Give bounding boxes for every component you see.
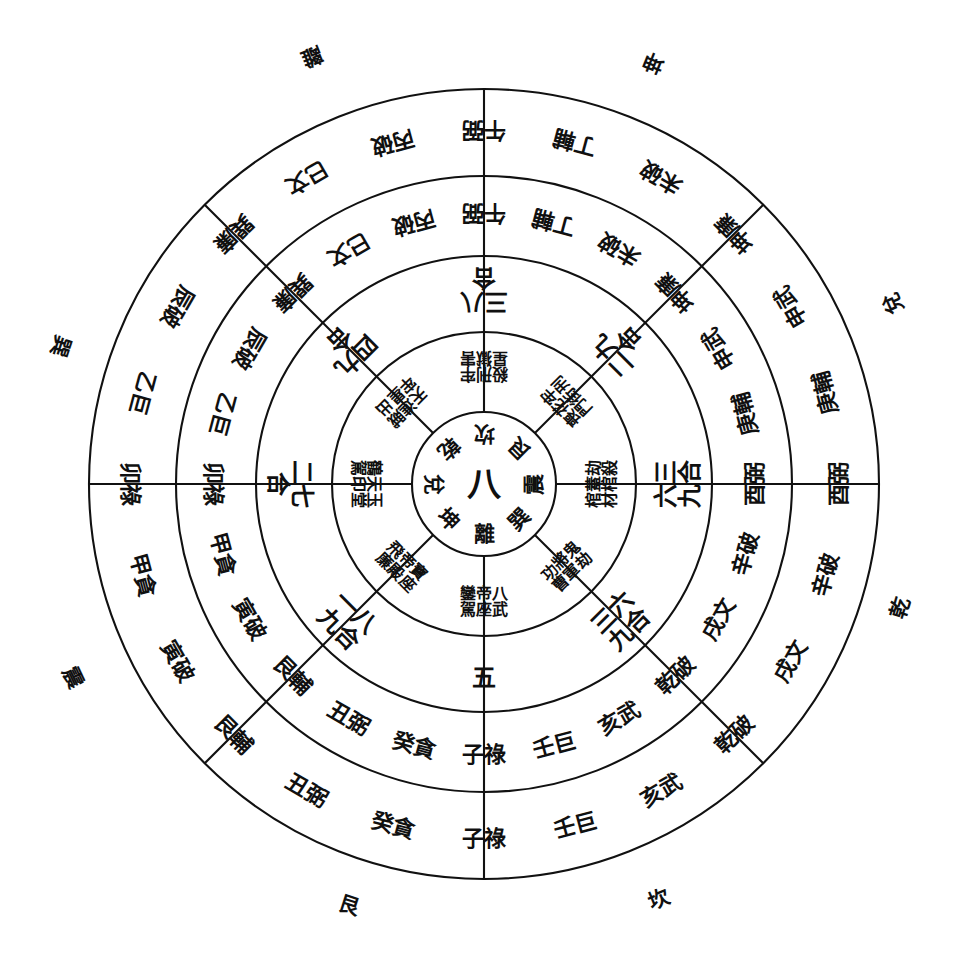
luopan-diagram: 八巽離坤兌乾坎艮震鑾帝八 駕座武飛帝寶 廉殿座鶴天玉 駕印堂天進賊 牢星出殺刑牢… (0, 0, 971, 970)
wheel-rings (0, 0, 971, 970)
ring-circle-0 (412, 412, 556, 556)
sector-divider-1 (535, 205, 763, 433)
sector-divider-3 (535, 535, 763, 763)
sector-divider-7 (205, 205, 433, 433)
sector-divider-5 (205, 535, 433, 763)
